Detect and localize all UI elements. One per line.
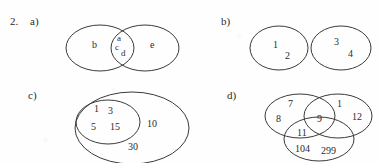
diagram-b-right-ellipse	[311, 26, 371, 70]
part-label-b: b)	[221, 16, 230, 27]
diagram-d-element-11: 11	[297, 128, 307, 138]
diagram-a-element-d: d	[121, 49, 126, 58]
diagram-d-element-8: 8	[276, 114, 281, 124]
diagram-c-element-5: 5	[91, 122, 96, 132]
part-label-d: d)	[227, 90, 236, 101]
diagram-d-element-299: 299	[321, 146, 336, 156]
diagram-d-element-1: 1	[337, 99, 342, 109]
part-label-a: a)	[30, 16, 39, 27]
part-label-c: c)	[28, 90, 37, 101]
diagram-c-element-10: 10	[147, 119, 157, 129]
exercise-number: 2.	[10, 16, 18, 27]
diagram-b-element-4: 4	[348, 49, 353, 59]
diagram-d-three-circle-venn	[262, 90, 374, 163]
diagram-d-element-104: 104	[295, 144, 310, 154]
diagram-b-two-disjoint-ellipses	[248, 22, 374, 74]
diagram-c-element-1: 1	[94, 104, 99, 114]
diagram-d-element-12: 12	[352, 112, 362, 122]
diagram-b-left-ellipse	[250, 26, 308, 70]
diagram-c-element-15: 15	[110, 122, 120, 132]
diagram-a-element-b: b	[92, 40, 97, 50]
diagram-d-element-7: 7	[288, 99, 293, 109]
diagram-b-element-2: 2	[285, 51, 290, 61]
diagram-b-element-3: 3	[334, 37, 339, 47]
diagram-c-element-3: 3	[108, 106, 113, 116]
scanned-exercise-page: 2. a) b a c d e b) 1 2 3 4 c) 1 3 5 15 1…	[0, 0, 379, 163]
diagram-a-element-c: c	[115, 43, 119, 52]
diagram-d-element-9: 9	[317, 114, 322, 124]
diagram-c-element-30: 30	[128, 142, 138, 152]
diagram-b-element-1: 1	[273, 40, 278, 50]
diagram-a-element-e: e	[150, 40, 154, 50]
